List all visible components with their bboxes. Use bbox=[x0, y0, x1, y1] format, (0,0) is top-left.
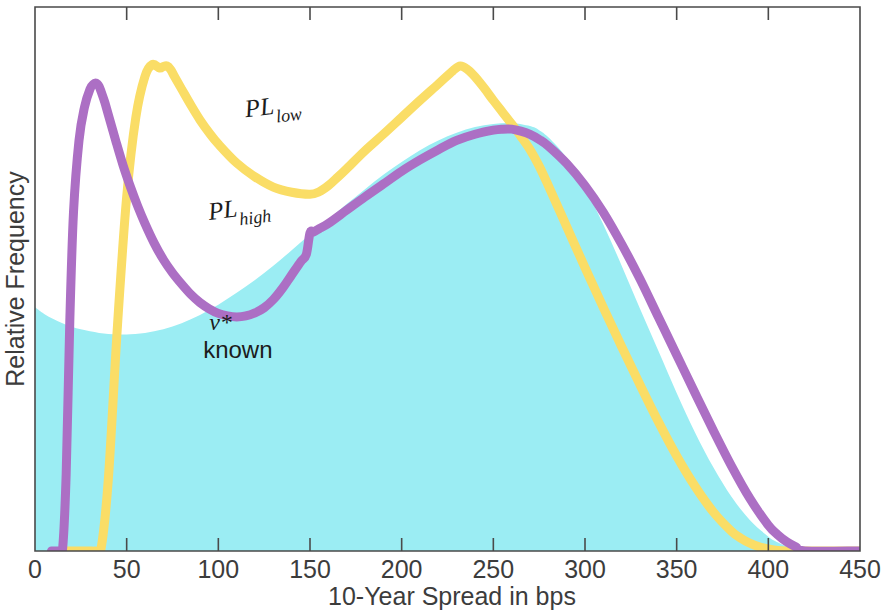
x-tick-label-50: 50 bbox=[113, 555, 141, 583]
y-axis-title: Relative Frequency bbox=[1, 171, 29, 387]
x-tick-label-250: 250 bbox=[472, 555, 514, 583]
pl-low-label-base: PL bbox=[242, 92, 275, 122]
x-axis-title: 10-Year Spread in bps bbox=[328, 582, 576, 610]
x-axis-tick-labels: 050100150200250300350400450 bbox=[28, 555, 881, 583]
pl-high-label-subscript: high bbox=[238, 205, 272, 229]
nu-star-known-label-symbol: ν* bbox=[209, 309, 232, 335]
x-tick-label-350: 350 bbox=[656, 555, 698, 583]
x-tick-label-300: 300 bbox=[564, 555, 606, 583]
pl-high-label-base: PL bbox=[205, 195, 238, 225]
x-tick-label-150: 150 bbox=[289, 555, 331, 583]
x-tick-label-0: 0 bbox=[28, 555, 42, 583]
nu-star-known-label-text: known bbox=[203, 336, 272, 363]
x-tick-label-450: 450 bbox=[839, 555, 881, 583]
pl-low-label-subscript: low bbox=[275, 104, 303, 127]
x-tick-label-400: 400 bbox=[747, 555, 789, 583]
x-tick-label-100: 100 bbox=[197, 555, 239, 583]
relative-frequency-spread-chart: 050100150200250300350400450 PLlowPLhighν… bbox=[0, 0, 885, 612]
chart-figure: 050100150200250300350400450 PLlowPLhighν… bbox=[0, 0, 885, 612]
x-tick-label-200: 200 bbox=[381, 555, 423, 583]
